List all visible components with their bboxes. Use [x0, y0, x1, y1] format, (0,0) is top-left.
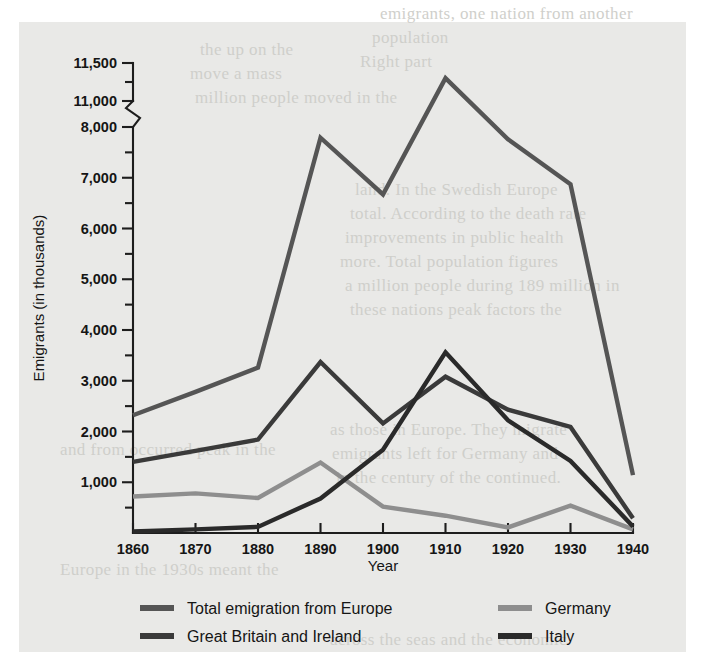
y-tick-label: 11,000 [73, 93, 117, 109]
series-line-germany [133, 463, 633, 530]
x-tick-label: 1920 [492, 541, 524, 557]
x-tick-label: 1870 [179, 541, 211, 557]
data-series-group [133, 78, 633, 531]
legend-label: Great Britain and Ireland [187, 628, 361, 645]
chart-legend: Total emigration from EuropeGreat Britai… [140, 600, 611, 645]
series-line-total-emigration-from-europe [133, 78, 633, 475]
x-tick-label: 1880 [242, 541, 274, 557]
x-tick-label: 1860 [117, 541, 149, 557]
y-minor-tick-marks [125, 82, 133, 508]
y-tick-label: 4,000 [81, 322, 117, 338]
y-tick-label: 5,000 [81, 271, 117, 287]
x-tick-label: 1910 [429, 541, 461, 557]
y-tick-label: 6,000 [81, 221, 117, 237]
emigration-line-chart: 1,0002,0003,0004,0005,0006,0007,0008,000… [0, 0, 709, 669]
y-tick-labels: 1,0002,0003,0004,0005,0006,0007,0008,000… [73, 55, 117, 490]
x-tick-label: 1890 [304, 541, 336, 557]
legend-label: Italy [545, 628, 574, 645]
y-tick-label: 7,000 [81, 170, 117, 186]
y-axis-title: Emigrants (in thousands) [30, 215, 47, 382]
y-tick-marks [122, 63, 133, 482]
chart-svg: 1,0002,0003,0004,0005,0006,0007,0008,000… [0, 0, 709, 669]
x-tick-labels: 186018701880189019001910192019301940 [117, 541, 649, 557]
scanned-page: emigrants, one nation from anotherpopula… [0, 0, 709, 669]
y-tick-label: 2,000 [81, 424, 117, 440]
axis-break-zigzag [126, 101, 140, 127]
legend-label: Germany [545, 600, 611, 617]
y-tick-label: 1,000 [81, 474, 117, 490]
x-tick-label: 1940 [617, 541, 649, 557]
y-tick-label: 8,000 [81, 119, 117, 135]
y-tick-label: 3,000 [81, 373, 117, 389]
legend-label: Total emigration from Europe [187, 600, 393, 617]
y-tick-label: 11,500 [73, 55, 117, 71]
x-tick-label: 1900 [367, 541, 399, 557]
x-axis-title: Year [368, 557, 398, 574]
x-tick-label: 1930 [554, 541, 586, 557]
